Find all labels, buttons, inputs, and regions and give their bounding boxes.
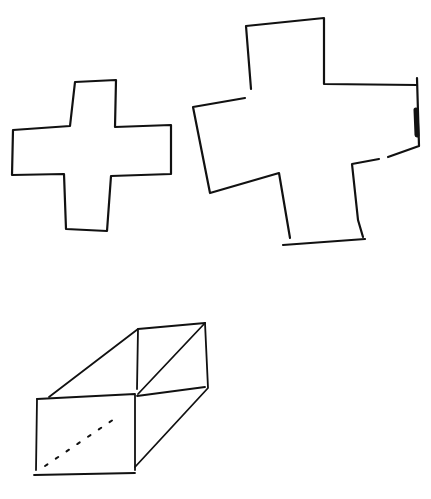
drawing-canvas <box>0 0 431 499</box>
small-cross <box>12 80 171 231</box>
open-box <box>34 323 208 475</box>
large-cross <box>193 18 419 245</box>
